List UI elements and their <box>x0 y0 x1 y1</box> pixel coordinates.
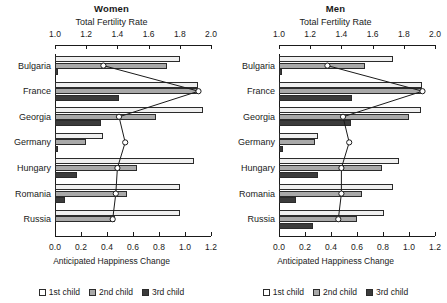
legend-swatch-1st-child <box>263 289 270 296</box>
legend-swatch-2nd-child <box>89 289 96 296</box>
secondary-axis-ticklabel: 1.2 <box>304 29 316 39</box>
tfr-marker-germany <box>123 140 128 145</box>
bar-bulgaria-child2 <box>279 63 365 69</box>
secondary-axis-tick <box>341 45 342 49</box>
secondary-axis-line <box>55 45 211 46</box>
bar-bulgaria-child1 <box>279 56 393 62</box>
x-axis-title: Anticipated Happiness Change <box>0 256 223 266</box>
x-axis-ticklabel: 1.2 <box>429 242 441 252</box>
bar-france-child2 <box>279 88 422 94</box>
bar-bulgaria-child2 <box>55 63 167 69</box>
bar-romania-child2 <box>279 191 362 197</box>
secondary-axis-tick <box>86 45 87 49</box>
bar-romania-child3 <box>279 197 296 203</box>
legend-label-1st-child: 1st child <box>273 287 304 297</box>
secondary-axis-tick <box>373 45 374 49</box>
x-axis-tick <box>279 232 280 236</box>
legend-item-3rd-child: 3rd child <box>142 287 184 297</box>
secondary-axis-ticklabel: 2.0 <box>205 29 217 39</box>
legend-label-2nd-child: 2nd child <box>323 287 357 297</box>
bar-romania-child3 <box>55 197 65 203</box>
bar-romania-child1 <box>55 184 180 190</box>
legend-label-3rd-child: 3rd child <box>152 287 184 297</box>
bar-russia-child2 <box>55 216 115 222</box>
bar-romania-child1 <box>279 184 393 190</box>
legend-label-1st-child: 1st child <box>49 287 80 297</box>
bar-germany-child2 <box>279 139 315 145</box>
x-axis-tick <box>107 232 108 236</box>
secondary-axis-tick <box>180 45 181 49</box>
legend-item-3rd-child: 3rd child <box>366 287 408 297</box>
category-label-germany: Germany <box>14 137 51 147</box>
x-axis-ticklabel: 0.0 <box>273 242 285 252</box>
chart-figure: Women Total Fertility Rate 1.01.21.41.61… <box>0 0 447 303</box>
category-label-bulgaria: Bulgaria <box>242 61 275 71</box>
x-axis-tick <box>383 232 384 236</box>
x-axis-tick <box>409 232 410 236</box>
bar-bulgaria-child3 <box>279 69 282 75</box>
plot-area-women: 1.01.21.41.61.82.0BulgariaFranceGeorgiaG… <box>0 0 223 303</box>
secondary-axis-tick <box>279 45 280 49</box>
secondary-axis-ticklabel: 1.6 <box>143 29 155 39</box>
legend-women: 1st child 2nd child 3rd child <box>0 287 223 297</box>
x-axis-ticklabel: 0.2 <box>75 242 87 252</box>
x-axis-ticklabel: 0.8 <box>153 242 165 252</box>
category-label-romania: Romania <box>239 189 275 199</box>
bar-georgia-child3 <box>55 120 101 126</box>
bar-russia-child1 <box>279 210 384 216</box>
x-axis-tick <box>159 232 160 236</box>
secondary-axis-ticklabel: 1.4 <box>111 29 123 39</box>
secondary-axis-ticklabel: 1.8 <box>398 29 410 39</box>
category-label-germany: Germany <box>238 137 275 147</box>
bar-russia-child1 <box>55 210 180 216</box>
secondary-axis-ticklabel: 1.2 <box>80 29 92 39</box>
bar-hungary-child1 <box>279 158 399 164</box>
x-axis-tick <box>211 232 212 236</box>
bar-hungary-child2 <box>279 165 382 171</box>
x-axis-ticklabel: 0.8 <box>377 242 389 252</box>
x-axis-ticklabel: 0.0 <box>49 242 61 252</box>
x-axis-title: Anticipated Happiness Change <box>224 256 447 266</box>
bar-georgia-child1 <box>55 107 203 113</box>
secondary-axis-tick <box>55 45 56 49</box>
x-axis-tick <box>357 232 358 236</box>
legend-item-2nd-child: 2nd child <box>89 287 133 297</box>
secondary-axis-ticklabels: 1.01.21.41.61.82.0 <box>224 29 447 41</box>
bar-georgia-child2 <box>279 114 409 120</box>
secondary-axis-ticklabel: 1.8 <box>174 29 186 39</box>
plot-area-men: 1.01.21.41.61.82.0BulgariaFranceGeorgiaG… <box>224 0 447 303</box>
x-axis-ticklabel: 0.6 <box>127 242 139 252</box>
bar-hungary-child1 <box>55 158 194 164</box>
category-label-russia: Russia <box>23 214 51 224</box>
x-axis-tick <box>331 232 332 236</box>
category-label-georgia: Georgia <box>243 112 275 122</box>
x-axis-ticklabel: 0.6 <box>351 242 363 252</box>
bar-germany-child1 <box>279 133 318 139</box>
x-axis-tick <box>81 232 82 236</box>
legend-item-1st-child: 1st child <box>263 287 304 297</box>
x-axis-tick <box>133 232 134 236</box>
x-axis-tick <box>185 232 186 236</box>
category-label-romania: Romania <box>15 189 51 199</box>
bar-georgia-child1 <box>279 107 421 113</box>
secondary-axis-ticklabel: 1.0 <box>273 29 285 39</box>
category-label-bulgaria: Bulgaria <box>18 61 51 71</box>
x-axis-ticklabel: 1.2 <box>205 242 217 252</box>
secondary-axis-tick <box>310 45 311 49</box>
tfr-marker-germany <box>347 140 352 145</box>
x-axis-line <box>279 236 435 237</box>
x-axis-ticklabel: 0.4 <box>325 242 337 252</box>
legend-label-2nd-child: 2nd child <box>99 287 133 297</box>
category-label-hungary: Hungary <box>17 163 51 173</box>
bar-france-child1 <box>55 82 198 88</box>
category-label-russia: Russia <box>247 214 275 224</box>
bar-france-child3 <box>279 95 352 101</box>
bar-germany-child3 <box>279 146 283 152</box>
bar-russia-child2 <box>279 216 357 222</box>
secondary-axis-ticklabel: 1.6 <box>367 29 379 39</box>
x-axis-ticklabel: 1.0 <box>403 242 415 252</box>
bar-romania-child2 <box>55 191 127 197</box>
x-axis-tick <box>435 232 436 236</box>
legend-label-3rd-child: 3rd child <box>376 287 408 297</box>
secondary-axis-ticklabel: 2.0 <box>429 29 441 39</box>
